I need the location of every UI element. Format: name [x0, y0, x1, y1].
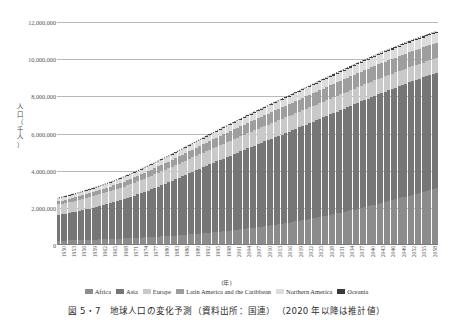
x-axis-tick-label: 2022 — [308, 246, 314, 257]
x-axis-tick-label: 2007 — [256, 246, 262, 257]
legend-item: Europe — [143, 288, 171, 295]
y-axis-tick-label: 4,000,000 — [0, 167, 56, 174]
legend-label: Latin America and the Caribbean — [186, 288, 271, 295]
x-axis-tick-label: 1953 — [71, 246, 77, 257]
y-axis-tick-label: 6,000,000 — [0, 130, 56, 137]
x-axis-tick-label: 2046 — [390, 246, 396, 257]
x-axis-tick-label: 1965 — [112, 246, 118, 257]
x-axis-tick-label: 1980 — [164, 246, 170, 257]
y-axis-tick-label: 8,000,000 — [0, 93, 56, 100]
x-axis-tick-label: 1977 — [153, 246, 159, 257]
total-trend-line — [57, 22, 438, 245]
legend-item: Oceania — [337, 288, 368, 295]
x-axis-tick-label: 2016 — [287, 246, 293, 257]
legend-item: Northern America — [276, 288, 332, 295]
x-axis-tick-label: 1989 — [195, 246, 201, 257]
x-axis-title: (年) — [0, 278, 453, 287]
x-axis-tick-label: 2010 — [267, 246, 273, 257]
legend-label: Northern America — [286, 288, 332, 295]
x-axis-tick-label: 1959 — [92, 246, 98, 257]
x-axis-tick-labels: 1950195319561959196219651968197119741977… — [57, 246, 438, 280]
legend-label: Europe — [153, 288, 171, 295]
legend-swatch — [143, 289, 151, 294]
legend-swatch — [337, 289, 345, 294]
x-axis-tick-label: 2013 — [277, 246, 283, 257]
x-axis-tick-label: 1956 — [81, 246, 87, 257]
x-axis-tick-label: 2028 — [329, 246, 335, 257]
legend-swatch — [176, 289, 184, 294]
x-axis-tick-label: 2037 — [359, 246, 365, 257]
x-axis-tick-label: 2049 — [401, 246, 407, 257]
x-axis-tick-label: 1971 — [133, 246, 139, 257]
legend-swatch — [85, 289, 93, 294]
x-axis-tick-label: 1974 — [143, 246, 149, 257]
plot-area — [57, 22, 438, 245]
legend-label: Africa — [95, 288, 111, 295]
legend-item: Asia — [116, 288, 138, 295]
x-axis-tick-label: 1992 — [205, 246, 211, 257]
x-axis-tick-label: 1998 — [226, 246, 232, 257]
x-axis-tick-label: 1950 — [61, 246, 67, 257]
x-axis-tick-label: 2052 — [411, 246, 417, 257]
x-axis-tick-label: 2055 — [421, 246, 427, 257]
x-axis-tick-label: 2040 — [370, 246, 376, 257]
y-axis-tick-labels: 02,000,0004,000,0006,000,0008,000,00010,… — [0, 0, 56, 235]
x-axis-tick-label: 2025 — [318, 246, 324, 257]
x-axis-tick-label: 2001 — [236, 246, 242, 257]
x-axis-tick-label: 2031 — [339, 246, 345, 257]
figure-root: 人口（千人） 02,000,0004,000,0006,000,0008,000… — [0, 0, 453, 328]
x-axis-tick-label: 1995 — [215, 246, 221, 257]
x-axis-tick-label: 1983 — [174, 246, 180, 257]
x-axis-tick-label: 2043 — [380, 246, 386, 257]
y-axis-tick-label: 2,000,000 — [0, 204, 56, 211]
x-axis-tick-label: 1986 — [184, 246, 190, 257]
trend-path — [59, 32, 437, 198]
legend-item: Africa — [85, 288, 111, 295]
x-axis-line — [57, 244, 438, 245]
x-axis-tick-label: 2019 — [298, 246, 304, 257]
legend-label: Oceania — [347, 288, 368, 295]
x-axis-tick-label: 2004 — [246, 246, 252, 257]
legend-label: Asia — [126, 288, 138, 295]
x-axis-tick-label: 2034 — [349, 246, 355, 257]
y-axis-tick-label: 0 — [0, 242, 56, 249]
legend-item: Latin America and the Caribbean — [176, 288, 271, 295]
x-axis-tick-label: 2058 — [432, 246, 438, 257]
legend-swatch — [276, 289, 284, 294]
y-axis-tick-label: 12,000,000 — [0, 19, 56, 26]
x-axis-tick-label: 1968 — [123, 246, 129, 257]
chart-legend: AfricaAsiaEuropeLatin America and the Ca… — [0, 288, 453, 295]
y-axis-tick-label: 10,000,000 — [0, 56, 56, 63]
x-axis-tick-label: 1962 — [102, 246, 108, 257]
legend-swatch — [116, 289, 124, 294]
figure-caption: 図 5・7 地球人口の変化予測（資料出所：国連） （2020 年以降は推計値） — [0, 304, 453, 316]
chart-figure: 人口（千人） 02,000,0004,000,0006,000,0008,000… — [0, 0, 453, 290]
